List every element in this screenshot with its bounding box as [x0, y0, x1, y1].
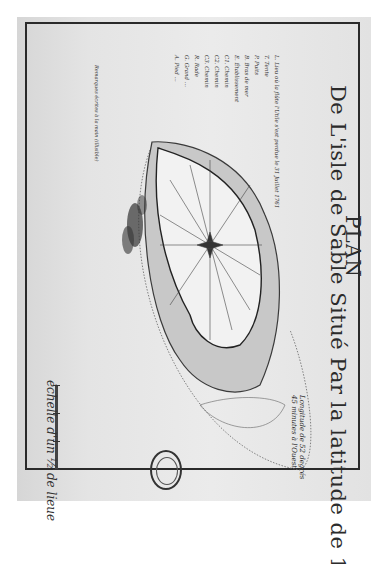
library-stamp-icon [150, 450, 182, 490]
map-subtitle-minutes: 45 minutes à l'Ouest [290, 395, 298, 468]
legend-item: A. Pied ... [172, 55, 182, 208]
rocks [122, 195, 147, 254]
legend-item: G. Grand ... [182, 55, 192, 208]
legend-item: P. Puits [252, 55, 262, 208]
legend-item: T. Tente [262, 55, 272, 208]
legend-item: B. Bras de mer [242, 55, 252, 208]
map-subtitle-longitude: Longitude de 52 degrés [298, 395, 306, 479]
scale-label: échelle d'un ½ de lieue [44, 380, 58, 521]
legend-item: E. Établissement [232, 55, 242, 208]
legend-item: L. Lieu où la flûte l'Utile s'est perdue… [272, 55, 282, 208]
legend-item: C1. Chemin [222, 55, 232, 208]
handwritten-notes: Remarques écrites à la main (illisible) [93, 65, 100, 161]
map-legend: L. Lieu où la flûte l'Utile s'est perdue… [172, 55, 282, 208]
legend-item: R. Rade [192, 55, 202, 208]
legend-item: C2. Chemin [212, 55, 222, 208]
reef-inner-line [200, 398, 285, 428]
legend-item: C3. Chemin [202, 55, 212, 208]
map-title: De L'isle de Sable Situé Par la latitude… [326, 85, 350, 564]
